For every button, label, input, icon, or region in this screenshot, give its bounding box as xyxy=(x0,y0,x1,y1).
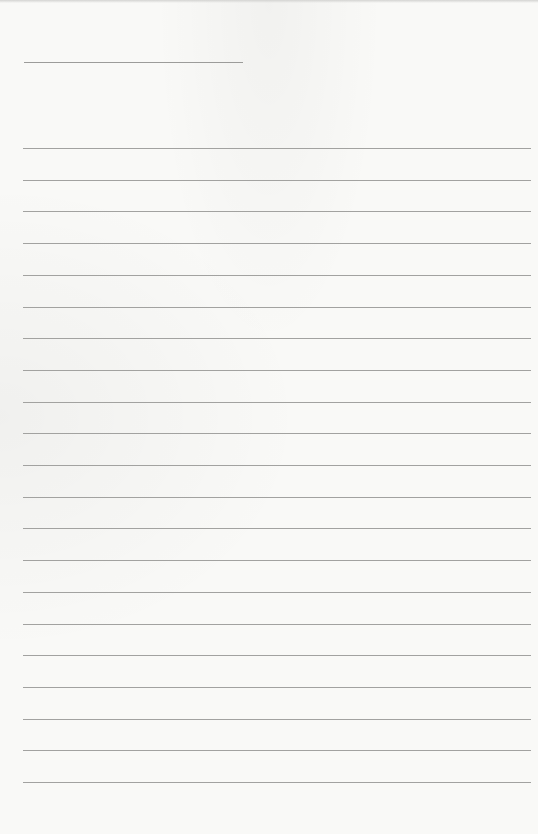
ruled-line xyxy=(23,465,531,466)
ruled-line xyxy=(23,719,531,720)
ruled-line xyxy=(23,338,531,339)
ruled-line xyxy=(23,528,531,529)
ruled-line xyxy=(23,592,531,593)
ruled-line xyxy=(23,243,531,244)
header-name-line xyxy=(24,62,243,63)
ruled-line xyxy=(23,655,531,656)
ruled-line xyxy=(23,560,531,561)
ruled-line xyxy=(23,211,531,212)
ruled-line xyxy=(23,782,531,783)
ruled-line xyxy=(23,687,531,688)
ruled-line xyxy=(23,307,531,308)
ruled-line xyxy=(23,750,531,751)
ruled-line xyxy=(23,148,531,149)
ruled-line xyxy=(23,370,531,371)
ruled-line xyxy=(23,275,531,276)
ruled-line xyxy=(23,497,531,498)
lined-paper-sheet xyxy=(0,0,538,834)
ruled-line xyxy=(23,433,531,434)
paper-top-edge xyxy=(0,0,538,3)
ruled-line xyxy=(23,624,531,625)
ruled-line xyxy=(23,402,531,403)
ruled-line xyxy=(23,180,531,181)
